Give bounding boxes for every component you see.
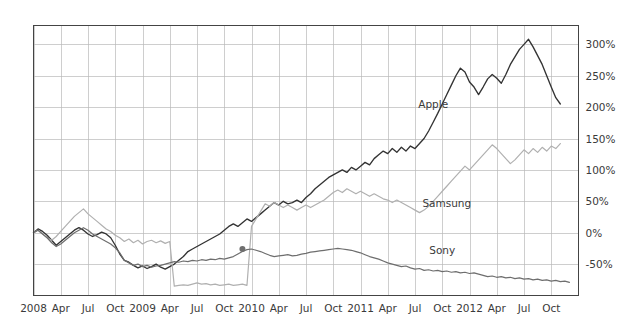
x-tick-label: Jul [190,302,204,314]
chart-canvas: 300%250%200%150%100%50%0%-50% 2008AprJul… [0,0,634,326]
x-tick-label: Jul [408,302,422,314]
y-tick-label: 50% [586,195,609,207]
apple-label: Apple [418,98,448,110]
x-tick-label: 2012 [456,302,483,314]
x-tick-label: Jul [517,302,531,314]
x-tick-label: Oct [324,302,342,314]
sony-marker-dot [239,246,245,252]
y-tick-label: 300% [586,38,616,50]
sony-label: Sony [429,244,455,256]
x-tick-label: 2009 [129,302,156,314]
y-tick-label: 200% [586,101,616,113]
x-tick-label: 2008 [20,302,47,314]
y-tick-label: 100% [586,164,616,176]
x-tick-label: 2011 [347,302,374,314]
x-tick-label: Oct [542,302,560,314]
x-tick-label: Apr [161,302,180,314]
x-tick-label: Apr [488,302,507,314]
y-tick-label: 150% [586,133,616,145]
y-tick-label: -50% [586,258,613,270]
x-tick-label: Apr [270,302,289,314]
x-tick-label: Apr [379,302,398,314]
x-tick-label: Oct [106,302,124,314]
x-tick-label: Oct [215,302,233,314]
y-tick-label: 0% [586,227,603,239]
chart-background [0,0,634,326]
stock-performance-chart: 300%250%200%150%100%50%0%-50% 2008AprJul… [0,0,634,326]
x-tick-label: Jul [299,302,313,314]
x-tick-label: 2010 [238,302,265,314]
x-tick-label: Jul [81,302,95,314]
samsung-label: Samsung [422,197,471,209]
y-tick-label: 250% [586,70,616,82]
x-tick-label: Apr [52,302,71,314]
x-tick-label: Oct [433,302,451,314]
marker-layer [239,246,245,252]
